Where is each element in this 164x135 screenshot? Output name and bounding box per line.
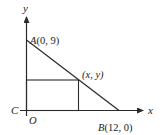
point-c-label: C [11, 104, 19, 116]
point-a-coords: (0, 9) [36, 35, 59, 47]
line-ab [27, 40, 120, 111]
coordinate-diagram: y x A(0, 9) (x, y) B(12, 0) C O [0, 0, 164, 135]
point-b-label: B(12, 0) [98, 122, 133, 134]
point-a-label: A(0, 9) [29, 35, 60, 47]
point-xy-label: (x, y) [82, 69, 104, 81]
inscribed-rectangle [27, 80, 79, 111]
origin-label: O [29, 115, 37, 126]
point-b-coords: (12, 0) [104, 122, 132, 134]
y-axis-label: y [22, 2, 28, 14]
x-axis-label: x [147, 104, 153, 116]
